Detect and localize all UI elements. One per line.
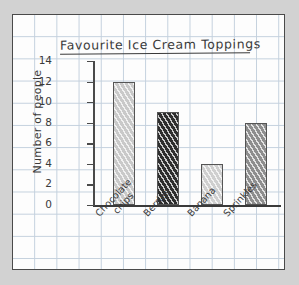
y-tick-label-6: 6 <box>30 136 52 148</box>
y-tick-label-0: 0 <box>30 198 52 210</box>
graph-paper: Favourite Ice Cream Toppings Number of p… <box>12 14 285 270</box>
chart-plot-area: Favourite Ice Cream Toppings Number of p… <box>13 15 284 269</box>
y-tick-label-8: 8 <box>30 116 52 128</box>
y-tick-label-14: 14 <box>30 54 52 66</box>
y-tick-2 <box>87 184 95 185</box>
y-tick-6 <box>87 143 95 144</box>
y-tick-10 <box>87 102 95 103</box>
y-tick-label-2: 2 <box>30 177 52 189</box>
y-tick-8 <box>87 123 95 124</box>
chart-title: Favourite Ice Cream Toppings <box>60 36 250 54</box>
y-tick-14 <box>87 61 95 62</box>
y-tick-label-12: 12 <box>30 75 52 87</box>
y-tick-12 <box>87 82 95 83</box>
y-tick-4 <box>87 164 95 165</box>
y-tick-label-10: 10 <box>30 95 52 107</box>
y-tick-0 <box>87 205 95 206</box>
y-tick-label-4: 4 <box>30 157 52 169</box>
